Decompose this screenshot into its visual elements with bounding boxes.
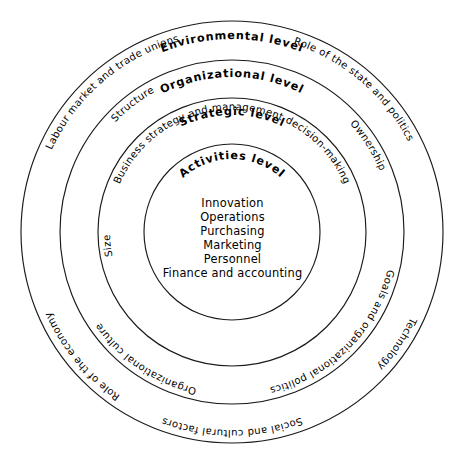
ring-outline-environmental: [21, 21, 443, 443]
factor-structure-text: Structure: [109, 84, 156, 124]
factor-structure: Structure: [109, 84, 156, 124]
factor-size-text: Size: [101, 234, 114, 258]
factor-technology-text: Technology: [376, 315, 420, 372]
factor-social-cultural: Social and cultural factors: [160, 416, 304, 439]
ring-title-organizational: Organizational level: [158, 67, 306, 96]
onion-diagram: Environmental level Labour market and tr…: [0, 0, 465, 468]
ring-title-environmental-text: Environmental level: [159, 29, 306, 55]
concentric-rings-svg: Environmental level Labour market and tr…: [0, 0, 465, 468]
ring-outline-strategic: [98, 98, 366, 366]
ring-outline-activities: [144, 144, 320, 320]
factor-ownership-text: Ownership: [348, 118, 388, 173]
factor-technology: Technology: [376, 315, 420, 372]
factor-social-cultural-text: Social and cultural factors: [160, 416, 304, 439]
factor-role-of-economy-text: Role of the economy: [42, 310, 121, 402]
factor-size: Size: [101, 234, 114, 258]
factor-ownership: Ownership: [348, 118, 388, 173]
factor-goals-politics: Goals and organizational politics: [269, 269, 397, 397]
ring-title-environmental: Environmental level: [159, 29, 306, 55]
factor-role-of-economy: Role of the economy: [42, 310, 121, 402]
ring-title-organizational-text: Organizational level: [158, 67, 306, 96]
factor-goals-politics-text: Goals and organizational politics: [269, 269, 397, 397]
